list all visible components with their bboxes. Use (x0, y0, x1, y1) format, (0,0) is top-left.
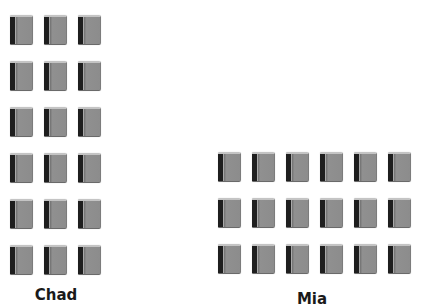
book-icon (354, 198, 377, 228)
book-icon (286, 198, 309, 228)
book-icon (218, 152, 241, 182)
book-icon (252, 244, 275, 274)
book-icon (78, 15, 101, 45)
book-icon (78, 107, 101, 137)
book-icon (388, 244, 411, 274)
book-icon (78, 153, 101, 183)
book-icon (252, 198, 275, 228)
book-icon (388, 152, 411, 182)
book-icon (78, 199, 101, 229)
book-icon (320, 244, 343, 274)
book-icon (44, 245, 67, 275)
book-icon (78, 61, 101, 91)
book-icon (354, 244, 377, 274)
book-icon (286, 152, 309, 182)
book-icon (10, 153, 33, 183)
book-icon (44, 107, 67, 137)
group-label-mia: Mia (272, 290, 352, 308)
group-label-chad: Chad (16, 286, 96, 304)
book-icon (44, 199, 67, 229)
book-icon (44, 15, 67, 45)
book-icon (10, 107, 33, 137)
book-icon (44, 153, 67, 183)
book-icon (218, 244, 241, 274)
book-icon (10, 61, 33, 91)
book-icon (10, 245, 33, 275)
book-icon (10, 15, 33, 45)
book-icon (320, 198, 343, 228)
book-icon (286, 244, 309, 274)
book-icon (354, 152, 377, 182)
book-icon (252, 152, 275, 182)
book-icon (10, 199, 33, 229)
book-icon (320, 152, 343, 182)
book-icon (78, 245, 101, 275)
book-icon (388, 198, 411, 228)
book-icon (218, 198, 241, 228)
book-icon (44, 61, 67, 91)
